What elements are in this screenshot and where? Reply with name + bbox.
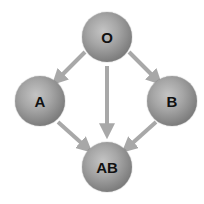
arrow-o-to-b	[129, 52, 157, 80]
node-a: A	[15, 76, 65, 126]
node-o-label: O	[101, 29, 113, 46]
node-a-label: A	[35, 93, 46, 110]
arrow-b-to-ab	[127, 122, 156, 148]
arrow-o-to-a	[57, 52, 85, 80]
arrow-a-to-ab	[58, 122, 87, 148]
node-b-label: B	[167, 93, 178, 110]
blood-type-diagram: O A B AB	[0, 0, 204, 204]
node-o: O	[82, 12, 132, 62]
node-ab-label: AB	[96, 159, 118, 176]
node-b: B	[147, 76, 197, 126]
node-ab: AB	[82, 142, 132, 192]
